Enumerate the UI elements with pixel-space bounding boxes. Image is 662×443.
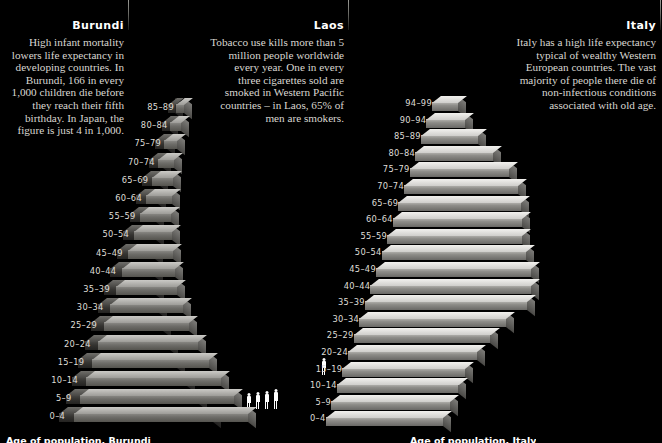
panel-title-laos: Laos: [220, 19, 344, 32]
bar-front-face: [331, 401, 450, 410]
age-label-italy-50–54: 50–54: [348, 247, 382, 257]
figure-torso: [256, 395, 260, 402]
bar-laos-5–9: [80, 389, 234, 404]
bar-italy-85–89: [421, 129, 478, 144]
bar-top-face: [348, 345, 486, 352]
person-silhouette-5: [272, 389, 279, 408]
bar-front-face: [404, 185, 518, 194]
panel-title-burundi: Burundi: [0, 19, 124, 32]
bar-front-face: [164, 140, 177, 149]
bar-top-face: [393, 212, 531, 219]
bar-laos-15–19: [92, 353, 209, 368]
age-label-italy-45–49: 45–49: [342, 264, 376, 274]
person-silhouette-4: [263, 391, 270, 408]
bar-italy-10–14: [337, 378, 459, 393]
bar-front-face: [80, 395, 234, 404]
bar-top-face: [398, 196, 530, 203]
age-label-burundi-25–29: 25–29: [63, 320, 97, 330]
bar-laos-80–84: [170, 116, 181, 131]
bar-top-face: [365, 295, 536, 302]
age-label-italy-35–39: 35–39: [331, 297, 365, 307]
bar-front-face: [387, 235, 522, 244]
bar-front-face: [140, 213, 171, 222]
age-label-burundi-50–54: 50–54: [95, 229, 129, 239]
age-label-burundi-20–24: 20–24: [57, 339, 91, 349]
bar-front-face: [122, 268, 175, 277]
bar-laos-40–44: [122, 262, 175, 277]
age-label-burundi-65–69: 65–69: [114, 175, 148, 185]
bar-top-face: [92, 353, 218, 360]
bar-front-face: [74, 413, 248, 422]
age-label-burundi-75–79: 75–79: [127, 138, 161, 148]
bar-laos-0–4: [74, 407, 248, 422]
bar-top-face: [354, 328, 499, 335]
bar-top-face: [421, 129, 487, 136]
age-label-italy-80–84: 80–84: [381, 148, 415, 158]
bar-front-face: [86, 377, 221, 386]
bar-top-face: [404, 179, 527, 186]
age-label-burundi-10–14: 10–14: [44, 375, 78, 385]
bar-laos-60–64: [146, 189, 172, 204]
divider-italy: [660, 0, 661, 30]
panel-body-italy: Italy has a high life expectancy typical…: [506, 36, 656, 112]
age-label-burundi-5–9: 5–9: [38, 393, 72, 403]
bar-italy-25–29: [354, 328, 491, 343]
footer-caption-italy: Age of population, Italy: [410, 435, 536, 443]
bar-front-face: [348, 351, 477, 360]
bar-front-face: [326, 417, 443, 426]
bar-italy-45–49: [376, 262, 531, 277]
figure-leg-right: [276, 401, 278, 409]
footer-caption-burundi: Age of population, Burundi: [6, 435, 151, 443]
figure-leg-right: [258, 402, 260, 409]
bar-front-face: [393, 218, 522, 227]
bar-laos-30–34: [110, 298, 183, 313]
bar-italy-35–39: [365, 295, 527, 310]
age-label-italy-60–64: 60–64: [359, 214, 393, 224]
bar-top-face: [116, 280, 186, 287]
bar-front-face: [376, 268, 531, 277]
bar-top-face: [382, 245, 535, 252]
bar-front-face: [415, 152, 493, 161]
figure-leg-right: [267, 402, 269, 409]
bar-top-face: [415, 146, 502, 153]
bar-laos-65–69: [152, 171, 173, 186]
bar-top-face: [80, 389, 243, 396]
bar-italy-15–19: [342, 362, 465, 377]
bar-top-face: [410, 162, 518, 169]
age-label-burundi-70–74: 70–74: [121, 157, 155, 167]
bar-top-face: [326, 411, 452, 418]
bar-italy-30–34: [359, 312, 506, 327]
infographic-canvas: 85–8980–8475–7970–7465–6960–6455–5950–54…: [0, 0, 662, 443]
age-label-italy-85–89: 85–89: [387, 131, 421, 141]
bar-front-face: [354, 334, 491, 343]
age-label-italy-75–79: 75–79: [376, 164, 410, 174]
bar-top-face: [74, 407, 257, 414]
bar-front-face: [359, 318, 506, 327]
age-label-italy-0–4: 0–4: [292, 413, 326, 423]
people-silhouette-group: [236, 386, 300, 408]
bar-top-face: [110, 298, 192, 305]
age-label-italy-55–59: 55–59: [353, 231, 387, 241]
age-label-italy-40–44: 40–44: [336, 281, 370, 291]
age-label-italy-25–29: 25–29: [320, 330, 354, 340]
age-label-italy-90–94: 90–94: [392, 115, 426, 125]
age-label-burundi-55–59: 55–59: [102, 211, 136, 221]
bar-laos-10–14: [86, 371, 221, 386]
age-label-burundi-80–84: 80–84: [134, 120, 168, 130]
bar-top-face: [331, 395, 458, 402]
bar-top-face: [376, 262, 539, 269]
bar-italy-80–84: [415, 146, 493, 161]
person-silhouette-3: [254, 392, 261, 408]
bar-italy-75–79: [410, 162, 509, 177]
bar-italy-40–44: [370, 279, 531, 294]
age-label-italy-30–34: 30–34: [325, 314, 359, 324]
bar-italy-0–4: [326, 411, 443, 426]
age-label-burundi-15–19: 15–19: [50, 357, 84, 367]
bar-top-face: [86, 371, 230, 378]
bar-laos-20–24: [98, 335, 198, 350]
age-label-burundi-60–64: 60–64: [108, 193, 142, 203]
bar-front-face: [110, 304, 183, 313]
figure-torso: [274, 392, 278, 401]
panel-title-italy: Italy: [520, 19, 656, 32]
bar-laos-45–49: [128, 244, 173, 259]
